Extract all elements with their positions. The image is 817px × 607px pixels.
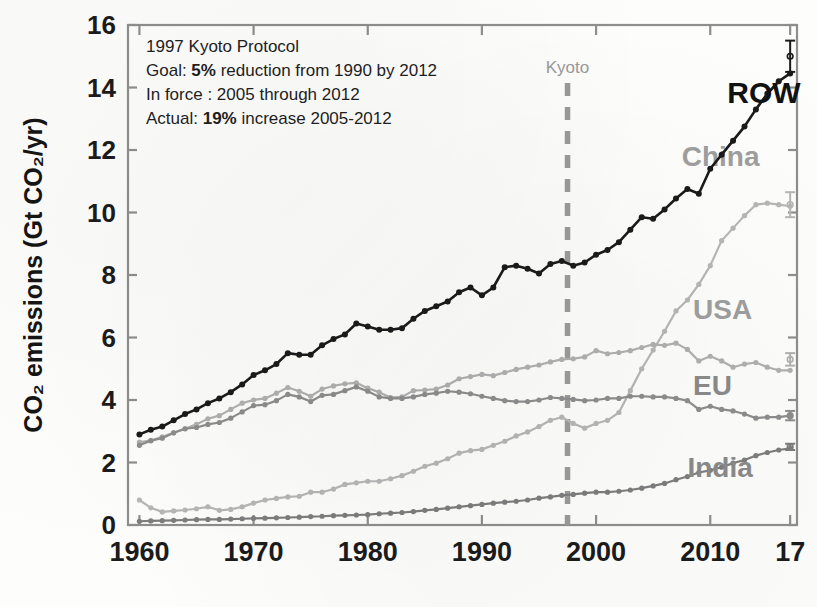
series-point xyxy=(468,503,473,508)
series-point xyxy=(547,261,553,267)
annotation-emphasis: 19% xyxy=(203,109,237,128)
series-point xyxy=(308,352,314,358)
series-point xyxy=(296,352,302,358)
series-point xyxy=(628,388,633,393)
series-point xyxy=(456,390,461,395)
series-point xyxy=(331,486,336,491)
series-point xyxy=(491,396,496,401)
series-point xyxy=(182,411,188,417)
series-point xyxy=(240,516,245,521)
series-india: India xyxy=(137,444,795,524)
series-point xyxy=(285,350,291,356)
series-point xyxy=(194,425,199,430)
series-point xyxy=(765,450,770,455)
series-point xyxy=(251,516,256,521)
series-point xyxy=(479,372,484,377)
series-point xyxy=(479,447,484,452)
series-point xyxy=(548,359,553,364)
series-point xyxy=(571,492,576,497)
series-point xyxy=(628,348,633,353)
y-tick-label: 2 xyxy=(102,448,116,478)
series-point xyxy=(228,516,233,521)
series-point xyxy=(217,517,222,522)
series-point xyxy=(182,517,187,522)
series-point xyxy=(377,511,382,516)
series-point xyxy=(217,420,222,425)
chart-canvas: 024681012141619601970198019902000201017C… xyxy=(0,0,817,607)
series-point xyxy=(456,504,461,509)
series-point xyxy=(662,329,667,334)
series-point xyxy=(445,506,450,511)
series-point xyxy=(468,391,473,396)
series-point xyxy=(467,285,473,291)
series-point xyxy=(342,381,347,386)
series-point xyxy=(479,502,484,507)
series-point xyxy=(205,416,210,421)
series-point xyxy=(285,494,290,499)
series-point xyxy=(136,431,142,437)
series-point xyxy=(502,398,507,403)
series-point xyxy=(696,407,701,412)
series-point xyxy=(605,396,610,401)
series-point xyxy=(673,341,678,346)
series-point xyxy=(194,517,199,522)
series-point xyxy=(399,325,405,331)
series-point xyxy=(205,517,210,522)
series-point xyxy=(297,394,302,399)
series-point xyxy=(514,399,519,404)
series-point xyxy=(639,366,644,371)
series-point xyxy=(262,402,267,407)
series-point xyxy=(411,394,416,399)
series-point xyxy=(205,400,211,406)
series-point xyxy=(514,367,519,372)
series-point xyxy=(627,227,633,233)
series-point xyxy=(753,453,758,458)
series-point xyxy=(388,511,393,516)
series-point xyxy=(548,494,553,499)
y-tick-label: 12 xyxy=(87,135,116,165)
series-point xyxy=(514,433,519,438)
series-point xyxy=(445,299,451,305)
series-point xyxy=(571,356,576,361)
series-point xyxy=(707,166,713,172)
series-point xyxy=(502,500,507,505)
series-point xyxy=(148,518,153,523)
y-tick-label: 6 xyxy=(102,323,116,353)
series-point xyxy=(628,487,633,492)
series-point xyxy=(605,351,610,356)
series-point xyxy=(422,308,428,314)
series-point xyxy=(354,384,359,389)
series-point xyxy=(490,285,496,291)
series-point xyxy=(399,473,404,478)
series-point xyxy=(502,439,507,444)
series-point xyxy=(719,358,724,363)
series-point xyxy=(616,396,621,401)
series-point xyxy=(422,392,427,397)
annotation-line: In force : 2005 through 2012 xyxy=(146,85,360,104)
series-point xyxy=(559,493,564,498)
series-point xyxy=(605,418,610,423)
series-point xyxy=(571,397,576,402)
series-point xyxy=(582,426,587,431)
series-point xyxy=(240,401,245,406)
series-point xyxy=(559,396,564,401)
series-point xyxy=(285,515,290,520)
x-tick-label: 1970 xyxy=(224,537,284,567)
series-point xyxy=(662,206,668,212)
series-point xyxy=(742,411,747,416)
series-point xyxy=(582,260,588,266)
series-point xyxy=(536,496,541,501)
series-point xyxy=(399,396,404,401)
series-point xyxy=(662,394,667,399)
y-tick-label: 8 xyxy=(102,260,116,290)
series-point xyxy=(456,376,461,381)
annotation-emphasis: 5% xyxy=(191,61,216,80)
series-point xyxy=(582,398,587,403)
series-point xyxy=(593,252,599,258)
series-point xyxy=(297,494,302,499)
series-point xyxy=(651,483,656,488)
series-point xyxy=(741,124,747,130)
series-point xyxy=(217,413,222,418)
series-eu: EU xyxy=(137,370,795,448)
series-point xyxy=(331,383,336,388)
